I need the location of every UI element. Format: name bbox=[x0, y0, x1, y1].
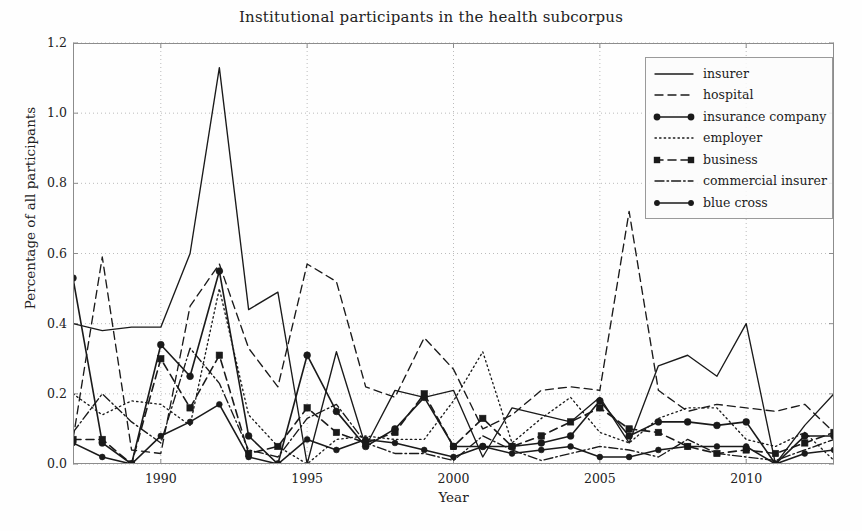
legend-line-sample-icon bbox=[652, 66, 696, 82]
legend-line-sample-icon bbox=[652, 152, 696, 168]
legend-item-label: hospital bbox=[703, 89, 753, 102]
legend-line-sample-icon bbox=[652, 195, 696, 211]
chart-legend: insurerhospitalinsurance companyemployer… bbox=[645, 57, 833, 219]
legend-line-sample-icon bbox=[652, 130, 696, 146]
legend-item-commercial-insurer[interactable]: commercial insurer bbox=[652, 171, 826, 193]
legend-item-insurance-company[interactable]: insurance company bbox=[652, 106, 826, 128]
legend-sample-marker bbox=[688, 157, 694, 163]
legend-line-sample-icon bbox=[652, 173, 696, 189]
legend-item-label: business bbox=[703, 154, 758, 167]
legend-item-business[interactable]: business bbox=[652, 149, 826, 171]
legend-item-insurer[interactable]: insurer bbox=[652, 63, 826, 85]
legend-sample-marker bbox=[654, 113, 661, 120]
legend-item-employer[interactable]: employer bbox=[652, 128, 826, 150]
legend-item-label: commercial insurer bbox=[703, 175, 827, 188]
legend-sample-marker bbox=[688, 113, 695, 120]
legend-line-sample-icon bbox=[652, 109, 696, 125]
legend-item-label: blue cross bbox=[703, 197, 768, 210]
chart-figure: Institutional participants in the health… bbox=[0, 0, 862, 531]
legend-item-blue-cross[interactable]: blue cross bbox=[652, 192, 826, 214]
legend-item-hospital[interactable]: hospital bbox=[652, 85, 826, 107]
legend-item-label: insurance company bbox=[703, 111, 826, 124]
legend-sample-marker bbox=[688, 200, 694, 206]
legend-item-label: employer bbox=[703, 132, 762, 145]
legend-line-sample-icon bbox=[652, 87, 696, 103]
legend-sample-marker bbox=[654, 157, 660, 163]
legend-sample-marker bbox=[654, 200, 660, 206]
legend-item-label: insurer bbox=[703, 68, 749, 81]
